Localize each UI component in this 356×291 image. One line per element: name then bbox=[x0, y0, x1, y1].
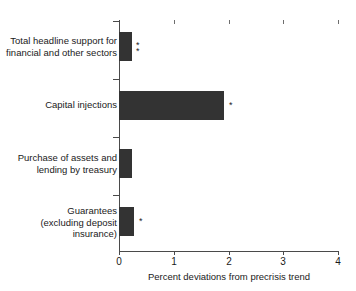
category-label-total-headline-support: Total headline support for financial and… bbox=[6, 35, 117, 58]
x-axis-title: Percent deviations from precrisis trend bbox=[119, 271, 339, 282]
top-tick-3 bbox=[283, 20, 284, 24]
bar-total-headline-support bbox=[119, 32, 132, 61]
x-tick-label-1: 1 bbox=[164, 256, 184, 268]
bar-guarantees bbox=[119, 207, 134, 236]
y-tick-group-0 bbox=[113, 21, 119, 22]
x-tick-4 bbox=[338, 251, 339, 255]
x-tick-3 bbox=[283, 251, 284, 255]
category-label-line: Capital injections bbox=[45, 99, 117, 111]
y-tick-group-2 bbox=[113, 137, 119, 138]
x-tick-label-3: 3 bbox=[273, 256, 293, 268]
y-tick-group-1 bbox=[113, 79, 119, 80]
top-tick-4 bbox=[338, 20, 339, 24]
x-tick-label-0: 0 bbox=[109, 256, 129, 268]
category-label-line: Purchase of assets and bbox=[18, 152, 117, 164]
y-tick-group-3 bbox=[113, 195, 119, 196]
x-tick-label-2: 2 bbox=[219, 256, 239, 268]
category-label-purchase-of-assets-and-lending: Purchase of assets and lending by treasu… bbox=[18, 152, 117, 175]
category-label-line: financial and other sectors bbox=[6, 47, 117, 59]
bar-marker-guarantees: * bbox=[139, 217, 143, 225]
asterisk-glyph: * bbox=[136, 48, 142, 54]
category-label-capital-injections: Capital injections bbox=[45, 99, 117, 111]
category-label-line: insurance) bbox=[40, 228, 117, 240]
category-label-line: (excluding deposit bbox=[40, 217, 117, 229]
category-label-line: Guarantees bbox=[40, 205, 117, 217]
x-tick-0 bbox=[119, 251, 120, 255]
x-tick-1 bbox=[174, 251, 175, 255]
x-tick-label-4: 4 bbox=[328, 256, 348, 268]
bar-purchase-of-assets-and-lending bbox=[119, 149, 132, 178]
bar-marker-capital-injections: * bbox=[229, 101, 233, 109]
bar-chart-figure: 0 1 2 3 4 Percent deviations from precri… bbox=[0, 0, 356, 291]
category-label-line: lending by treasury bbox=[18, 164, 117, 176]
category-label-line: Total headline support for bbox=[6, 35, 117, 47]
top-tick-2 bbox=[229, 20, 230, 24]
x-tick-2 bbox=[229, 251, 230, 255]
bar-marker-total-headline-support: * * bbox=[136, 42, 142, 54]
top-tick-1 bbox=[174, 20, 175, 24]
bar-capital-injections bbox=[119, 91, 224, 120]
category-label-guarantees: Guarantees (excluding deposit insurance) bbox=[40, 205, 117, 240]
